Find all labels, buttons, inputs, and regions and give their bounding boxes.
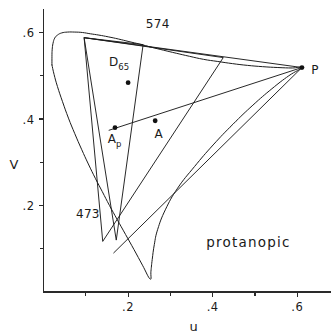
y-axis-tick-label-2: .6 <box>23 26 35 40</box>
x-axis-tick-label-2: .6 <box>291 300 303 314</box>
labels-group: .2.4.6.2.4.6uVD65ApAP574473protanopic <box>10 17 319 334</box>
confusion-line-0 <box>109 68 302 131</box>
point-label-p: P <box>311 63 318 77</box>
chromaticity-diagram: .2.4.6.2.4.6uVD65ApAP574473protanopic <box>0 0 332 335</box>
point-label-d65: D65 <box>109 55 129 72</box>
wavelength-label-574: 574 <box>146 17 170 31</box>
figure-caption: protanopic <box>206 234 290 250</box>
data-point-A <box>153 118 158 123</box>
y-axis-tick-label-0: .2 <box>23 199 35 213</box>
x-axis-title: u <box>190 319 198 334</box>
y-axis-tick-label-1: .4 <box>23 113 35 127</box>
figure-svg: .2.4.6.2.4.6uVD65ApAP574473protanopic <box>0 0 332 335</box>
x-axis-tick-label-0: .2 <box>122 300 134 314</box>
confusion-line-2 <box>114 68 302 253</box>
y-axis-title: V <box>10 157 19 172</box>
data-point-D65 <box>126 80 131 85</box>
point-label-ap: Ap <box>108 132 122 149</box>
point-label-a: A <box>154 127 163 141</box>
data-point-P <box>300 65 305 70</box>
x-axis-tick-label-1: .4 <box>207 300 219 314</box>
data-point-Ap <box>113 125 118 130</box>
wavelength-label-473: 473 <box>76 207 100 221</box>
